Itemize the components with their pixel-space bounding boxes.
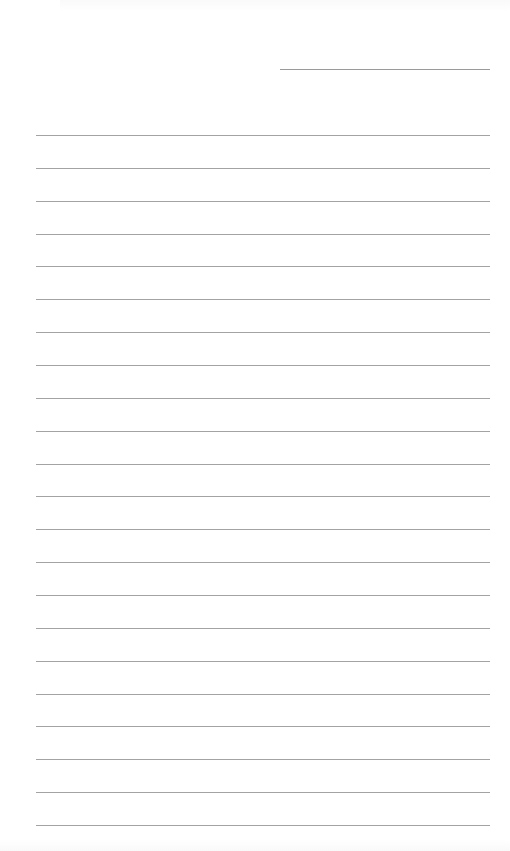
ruled-line xyxy=(36,431,490,432)
ruled-line xyxy=(36,464,490,465)
ruled-line xyxy=(36,201,490,202)
ruled-line xyxy=(36,266,490,267)
ruled-line xyxy=(36,562,490,563)
ruled-line xyxy=(36,135,490,136)
ruled-line xyxy=(36,661,490,662)
ruled-line xyxy=(36,694,490,695)
ruled-line xyxy=(36,168,490,169)
ruled-line xyxy=(36,726,490,727)
ruled-line xyxy=(36,529,490,530)
ruled-line xyxy=(36,365,490,366)
ruled-line xyxy=(36,628,490,629)
ruled-line xyxy=(36,234,490,235)
ruled-line xyxy=(36,759,490,760)
header-name-line xyxy=(280,69,490,70)
ruled-line xyxy=(36,595,490,596)
ruled-line xyxy=(36,825,490,826)
ruled-line xyxy=(36,332,490,333)
lined-paper-page xyxy=(0,0,510,851)
bottom-edge-bleed-through xyxy=(0,839,510,851)
ruled-line xyxy=(36,496,490,497)
ruled-line xyxy=(36,792,490,793)
ruled-line xyxy=(36,299,490,300)
ruled-line xyxy=(36,398,490,399)
top-edge-bleed-through xyxy=(60,0,510,12)
